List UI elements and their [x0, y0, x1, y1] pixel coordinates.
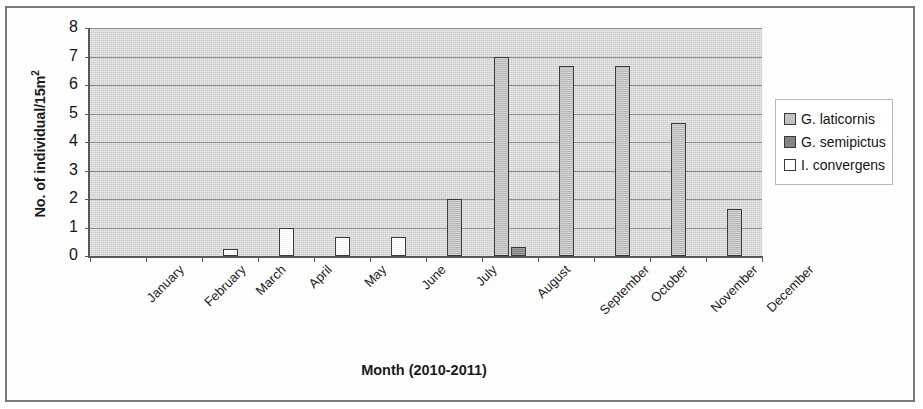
x-axis-label-april: April [306, 262, 335, 291]
x-axis-label-may: May [361, 262, 389, 290]
bar-texture [560, 67, 573, 255]
bar-april-i-convergens [279, 228, 294, 257]
bar-november-g-laticornis [671, 123, 686, 256]
y-tick-mark [85, 142, 90, 143]
y-tick-label: 8 [52, 18, 78, 36]
bar-march-i-convergens [223, 249, 238, 256]
y-tick-label: 2 [52, 189, 78, 207]
bar-august-g-laticornis [494, 57, 509, 257]
y-tick-label: 1 [52, 218, 78, 236]
bar-july-g-laticornis [447, 199, 462, 256]
x-axis-label-september: September [597, 262, 653, 318]
y-tick-mark [85, 57, 90, 58]
x-tick-mark [762, 256, 763, 262]
gridline [90, 57, 762, 58]
gridline [90, 228, 762, 229]
plot-area: 876543210 [88, 28, 762, 258]
y-tick-mark [85, 228, 90, 229]
legend-label: I. convergens [801, 157, 885, 173]
bar-texture [495, 58, 508, 256]
y-tick-label: 7 [52, 47, 78, 65]
legend-swatch-icon [784, 159, 796, 171]
legend-item-i-convergens: I. convergens [784, 153, 886, 176]
bar-december-g-laticornis [727, 209, 742, 256]
x-axis-label-january: January [144, 262, 187, 305]
legend-item-g-laticornis: G. laticornis [784, 107, 886, 130]
y-tick-mark [85, 85, 90, 86]
y-axis-title-text: No. of individual/15m2 [32, 70, 48, 217]
bar-texture [448, 200, 461, 255]
gridline [90, 199, 762, 200]
bar-october-g-laticornis [615, 66, 630, 256]
bar-texture [280, 229, 293, 256]
legend-item-g-semipictus: G. semipictus [784, 130, 886, 153]
y-tick-label: 3 [52, 161, 78, 179]
gridline [90, 28, 762, 29]
x-axis-label-october: October [648, 262, 691, 305]
legend-label: G. laticornis [801, 111, 875, 127]
x-axis-label-march: March [253, 262, 289, 298]
y-tick-mark [85, 28, 90, 29]
gridline [90, 171, 762, 172]
x-axis-label-november: November [708, 262, 761, 315]
gridline [90, 114, 762, 115]
y-tick-mark [85, 171, 90, 172]
bar-texture [224, 250, 237, 255]
bar-september-g-laticornis [559, 66, 574, 256]
gridline [90, 85, 762, 86]
bar-texture [392, 238, 405, 255]
chart-screenshot: No. of individual/15m2 876543210 January… [0, 0, 923, 409]
bar-texture [728, 210, 741, 255]
chart-legend: G. laticornisG. semipictusI. convergens [775, 99, 893, 185]
legend-label: G. semipictus [801, 134, 886, 150]
bar-june-i-convergens [391, 237, 406, 256]
bar-august-g-semipictus [511, 247, 526, 256]
legend-swatch-icon [784, 113, 796, 125]
x-axis-label-june: June [418, 262, 449, 293]
x-axis-label-december: December [764, 262, 817, 315]
bar-chart: No. of individual/15m2 876543210 January… [0, 0, 923, 409]
x-axis-label-july: July [473, 262, 500, 289]
legend-swatch-icon [784, 136, 796, 148]
y-tick-mark [85, 114, 90, 115]
bar-texture [672, 124, 685, 255]
gridline [90, 142, 762, 143]
y-tick-mark [85, 199, 90, 200]
bar-texture [616, 67, 629, 255]
x-axis-label-february: February [201, 262, 248, 309]
y-tick-label: 6 [52, 75, 78, 93]
y-axis-title: No. of individual/15m2 [30, 29, 48, 259]
y-tick-label: 4 [52, 132, 78, 150]
bar-may-i-convergens [335, 237, 350, 256]
y-tick-label: 5 [52, 104, 78, 122]
x-axis-tick-labels: JanuaryFebruaryMarchAprilMayJuneJulyAugu… [88, 262, 760, 352]
bar-texture [336, 238, 349, 255]
x-axis-label-august: August [534, 262, 573, 301]
bar-texture [512, 248, 525, 255]
x-axis-title: Month (2010-2011) [88, 362, 760, 378]
y-tick-label: 0 [52, 246, 78, 264]
